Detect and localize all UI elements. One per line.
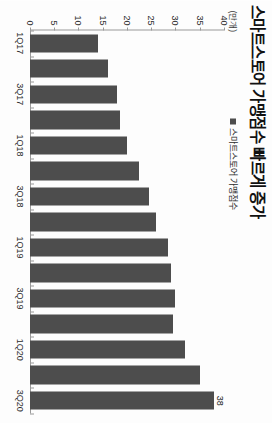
category-axis-tick-label: 3Q18 [15, 185, 30, 207]
bar-slot[interactable] [30, 132, 224, 158]
bar[interactable] [30, 289, 176, 307]
rotated-figure-wrapper: 스마트스토어 가맹점수 빠르게 증가 (만개) 스마트스토어 가맹점수 0510… [0, 0, 272, 423]
bar[interactable] [30, 187, 149, 205]
bar-slot[interactable] [30, 158, 224, 184]
category-axis-tick-mark [30, 336, 34, 337]
category-axis-tick-mark [30, 311, 34, 312]
value-axis-tick-mark [224, 27, 225, 30]
category-axis-tick-mark [30, 132, 34, 133]
axis-unit-label: (만개) [228, 10, 240, 32]
category-axis-tick-label: 1Q20 [15, 338, 30, 360]
category-axis-tick-mark [30, 260, 34, 261]
category-axis-tick-mark [30, 107, 34, 108]
category-axis-tick-label: 3Q17 [15, 83, 30, 105]
bar[interactable] [30, 59, 108, 77]
bar-slot[interactable] [30, 56, 224, 82]
plot-area: 38 [30, 30, 224, 413]
category-axis-tick-label: 3Q20 [15, 389, 30, 411]
bar-slot[interactable] [30, 260, 224, 286]
category-axis-tick-mark [30, 413, 34, 414]
bar[interactable] [30, 340, 185, 358]
bar-slot[interactable] [30, 209, 224, 235]
bar[interactable] [30, 85, 117, 103]
category-axis-tick-label: 1Q19 [15, 236, 30, 258]
bar[interactable] [30, 263, 171, 281]
category-axis-tick-mark [30, 56, 34, 57]
bar-slot[interactable] [30, 81, 224, 107]
bar-slot[interactable] [30, 285, 224, 311]
bar-slot[interactable] [30, 30, 224, 56]
bar-slot[interactable]: 38 [30, 387, 224, 413]
chart-legend: 스마트스토어 가맹점수 [227, 118, 240, 210]
bar[interactable] [30, 212, 156, 230]
bar-slot[interactable] [30, 362, 224, 388]
category-axis-tick-mark [30, 81, 34, 82]
chart-title: 스마트스토어 가맹점수 빠르게 증가 [248, 4, 270, 218]
bar[interactable] [30, 391, 214, 409]
bar[interactable] [30, 136, 127, 154]
bar[interactable] [30, 110, 120, 128]
category-axis-tick-mark [30, 209, 34, 210]
chart-figure: 스마트스토어 가맹점수 빠르게 증가 (만개) 스마트스토어 가맹점수 0510… [0, 0, 272, 423]
bar-value-label: 38 [215, 395, 225, 405]
bar-slot[interactable] [30, 107, 224, 133]
bar[interactable] [30, 314, 173, 332]
bar[interactable] [30, 34, 98, 52]
category-axis-tick-mark [30, 285, 34, 286]
bar-series: 38 [30, 30, 224, 413]
bar-slot[interactable] [30, 234, 224, 260]
legend-swatch-icon [231, 118, 237, 124]
category-axis-tick-mark [30, 234, 34, 235]
bar[interactable] [30, 238, 168, 256]
category-axis-tick-mark [30, 183, 34, 184]
bar-slot[interactable] [30, 311, 224, 337]
category-axis-tick-mark [30, 387, 34, 388]
category-axis-tick-mark [30, 30, 34, 31]
bar[interactable] [30, 365, 200, 383]
bar[interactable] [30, 161, 139, 179]
legend-item-label: 스마트스토어 가맹점수 [227, 127, 240, 210]
category-axis-tick-label: 1Q17 [15, 32, 30, 54]
bar-slot[interactable] [30, 336, 224, 362]
bar-slot[interactable] [30, 183, 224, 209]
category-axis-tick-mark [30, 362, 34, 363]
value-axis: 0510152025303540 [30, 0, 224, 30]
category-axis: 1Q173Q171Q183Q181Q193Q191Q203Q20 [0, 30, 30, 413]
category-axis-tick-mark [30, 158, 34, 159]
category-axis-tick-label: 3Q19 [15, 287, 30, 309]
category-axis-tick-label: 1Q18 [15, 134, 30, 156]
